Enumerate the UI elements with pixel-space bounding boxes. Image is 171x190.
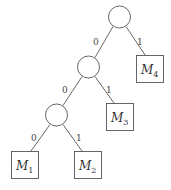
edge-label-n3-left: 0 (31, 133, 37, 143)
tree-node-root (109, 6, 131, 28)
edge-label-n1-left: 0 (93, 37, 99, 47)
tree-node-level2 (78, 56, 100, 78)
binary-tree-diagram: M4 M3 M1 M2 0 1 0 1 0 1 (0, 0, 171, 190)
edge-label-n2-right: 1 (106, 85, 112, 95)
edge-label-n2-left: 0 (62, 85, 68, 95)
edge-label-n1-right: 1 (137, 37, 143, 47)
tree-node-level3 (46, 104, 68, 126)
edge-label-n3-right: 1 (76, 133, 82, 143)
